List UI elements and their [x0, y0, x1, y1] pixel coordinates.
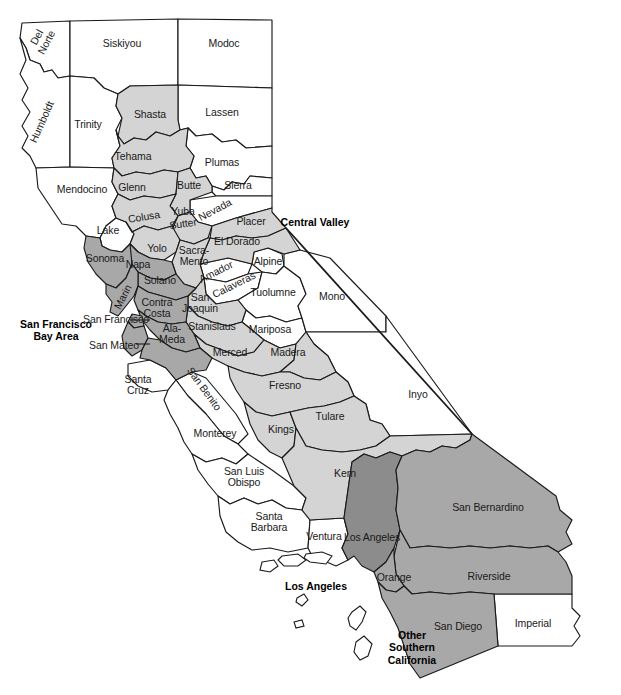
county-label-sonoma: Sonoma	[86, 253, 125, 264]
county-label-fresno: Fresno	[269, 380, 301, 391]
county-label-stanislaus: Stanislaus	[188, 321, 235, 332]
county-label-santa-cruz: SantaCruz	[125, 374, 152, 397]
county-label-orange: Orange	[377, 572, 411, 583]
county-label-tulare: Tulare	[316, 411, 345, 422]
county-label-sacra-mento: Sacra-Mento	[179, 245, 209, 268]
county-label-trinity: Trinity	[74, 119, 102, 130]
island-shape-san-clemente	[354, 636, 372, 660]
county-label-san-mateo: San Mateo	[89, 340, 139, 351]
county-label-kern: Kern	[334, 468, 356, 479]
county-label-kings: Kings	[268, 424, 294, 435]
county-label-alpine: Alpine	[254, 256, 283, 267]
county-label-mono: Mono	[319, 291, 345, 302]
county-label-mendocino: Mendocino	[57, 184, 107, 195]
county-label-monterey: Monterey	[194, 428, 237, 439]
county-label-shasta: Shasta	[134, 109, 166, 120]
county-label-sierra: Sierra	[224, 180, 251, 191]
county-shape-san-bernardino	[396, 434, 572, 552]
island-shape-santa-barbara-island	[294, 620, 304, 628]
california-county-map: DelNorteSiskiyouModocHumboldtTrinityShas…	[0, 0, 621, 695]
county-label-lake: Lake	[97, 225, 119, 236]
county-label-ventura: Ventura	[306, 531, 342, 542]
county-label-imperial: Imperial	[515, 618, 552, 629]
region-label-los-angeles: Los Angeles	[285, 580, 347, 592]
region-label-other-southern-california: OtherSouthernCalifornia	[388, 629, 436, 666]
county-label-madera: Madera	[270, 347, 305, 358]
county-label-plumas: Plumas	[205, 157, 239, 168]
county-label-riverside: Riverside	[468, 571, 511, 582]
region-label-central-valley: Central Valley	[281, 216, 350, 228]
county-label-el-dorado: El Dorado	[214, 236, 260, 247]
county-label-butte: Butte	[177, 180, 201, 191]
county-label-siskiyou: Siskiyou	[103, 38, 141, 49]
county-label-inyo: Inyo	[408, 389, 427, 400]
county-label-yolo: Yolo	[147, 243, 167, 254]
county-label-placer: Placer	[236, 216, 265, 227]
county-label-san-joaquin: SanJoaquin	[182, 292, 218, 315]
county-label-mariposa: Mariposa	[249, 324, 291, 335]
county-label-los-angeles: Los Angeles	[344, 532, 400, 543]
county-label-solano: Solano	[144, 275, 176, 286]
island-shape-santa-cruz-island	[304, 552, 332, 564]
region-label-san-francisco-bay-area: San FranciscoBay Area	[20, 318, 92, 343]
county-label-san-luis-obispo: San LuisObispo	[224, 466, 264, 489]
island-shape-santa-catalina	[348, 606, 366, 630]
county-label-santa-barbara: SantaBarbara	[251, 511, 288, 534]
county-label-san-diego: San Diego	[434, 621, 482, 632]
county-label-glenn: Glenn	[118, 182, 146, 193]
county-label-san-francisco: San Francisco	[83, 314, 149, 325]
county-shape-modoc	[178, 19, 272, 88]
county-label-merced: Merced	[213, 347, 247, 358]
county-label-napa: Napa	[126, 259, 151, 270]
county-label-lassen: Lassen	[205, 107, 238, 118]
island-shape-anacapa	[296, 594, 308, 606]
county-label-tehama: Tehama	[115, 151, 152, 162]
island-shape-san-miguel	[260, 560, 278, 572]
county-label-modoc: Modoc	[208, 38, 239, 49]
county-label-ala-meda: Ala-Meda	[159, 323, 185, 346]
county-label-tuolumne: Tuolumne	[250, 287, 296, 298]
island-shape-santa-rosa	[278, 554, 306, 566]
county-label-san-bernardino: San Bernardino	[452, 502, 524, 513]
